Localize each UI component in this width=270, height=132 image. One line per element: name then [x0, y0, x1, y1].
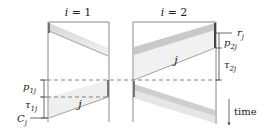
- completion-label: Cj: [17, 113, 28, 127]
- time-label: time: [234, 106, 257, 117]
- schedule-diagram: i = 1 i = 2 j j rj p2j τ2j p1j τ1j Cj ti…: [0, 0, 270, 132]
- tau2j-label: τ2j: [224, 59, 237, 73]
- release-label: rj: [237, 27, 245, 41]
- p1j-label: p1j: [23, 81, 37, 95]
- machine-1-top-band: [49, 23, 108, 56]
- p2j-label: p2j: [224, 37, 238, 51]
- tau1j-label: τ1j: [25, 99, 38, 113]
- machine-1-label: i = 1: [65, 6, 92, 19]
- machine-2-label: i = 2: [161, 6, 188, 19]
